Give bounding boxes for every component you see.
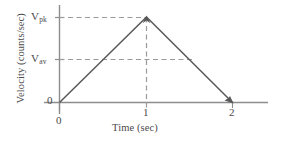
x-tick-label-one: 1 xyxy=(143,107,149,118)
velocity-falling-segment xyxy=(147,17,233,103)
y-axis-label: Velocity (counts/sec) xyxy=(16,0,27,117)
y-tick-label-zero: 0 xyxy=(47,95,53,106)
y-tick-label-vav: Vav xyxy=(31,53,46,64)
x-tick-label-zero: 0 xyxy=(56,115,62,126)
x-tick-label-two: 2 xyxy=(229,107,235,118)
vpk-symbol: V xyxy=(31,10,39,22)
velocity-time-chart: Velocity (counts/sec) Time (sec) Vpk Vav… xyxy=(0,0,282,143)
vav-subscript: av xyxy=(39,57,46,66)
vav-symbol: V xyxy=(31,52,39,64)
x-axis-label: Time (sec) xyxy=(112,123,158,134)
y-tick-label-vpk: Vpk xyxy=(31,11,46,22)
vpk-subscript: pk xyxy=(39,15,47,24)
